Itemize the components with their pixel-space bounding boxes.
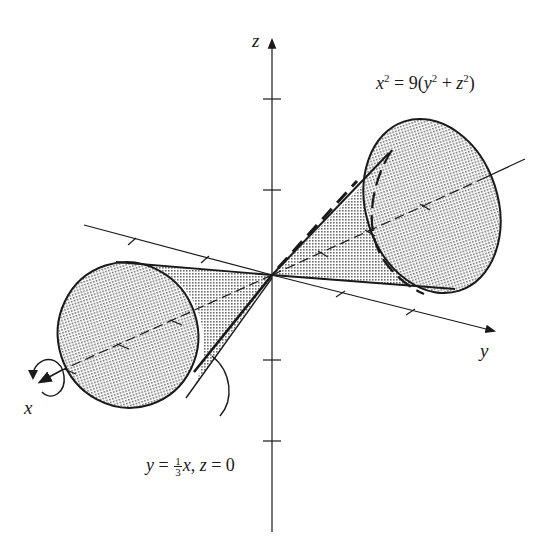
fraction-one-third: 13 [174, 456, 182, 477]
generator-leader-line [212, 356, 229, 416]
z-axis-label: z [252, 30, 259, 52]
left-cone [39, 244, 272, 426]
surface-equation: x2 = 9(y2 + z2) [376, 73, 475, 94]
right-cone [272, 101, 522, 311]
y-axis-tick [128, 238, 136, 245]
y-axis-label: y [480, 340, 488, 362]
x-axis-label: x [24, 397, 32, 419]
generator-equation: y = 13x, z = 0 [146, 455, 235, 477]
